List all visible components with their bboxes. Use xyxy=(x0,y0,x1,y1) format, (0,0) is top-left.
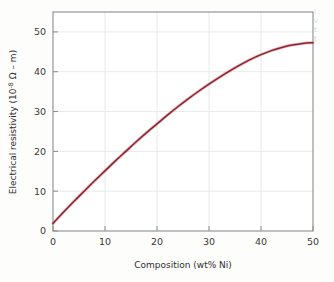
bleed-line: t xyxy=(314,35,334,44)
x-axis-title: Composition (wt% Ni) xyxy=(134,260,232,270)
x-axis-tick-labels: 01020304050 xyxy=(50,236,319,247)
page-text-bleed: l v t t xyxy=(314,8,334,44)
chart-figure: 01020304050 01020304050 Composition (wt%… xyxy=(0,0,334,282)
tick-label-y: 0 xyxy=(40,225,46,236)
tick-label-x: 40 xyxy=(255,236,267,247)
chart-canvas: 01020304050 01020304050 Composition (wt%… xyxy=(0,0,334,282)
bleed-line: l xyxy=(314,8,334,17)
tick-label-x: 0 xyxy=(50,236,56,247)
tick-label-y: 30 xyxy=(34,106,46,117)
tick-label-y: 20 xyxy=(34,146,46,157)
plot-area-background xyxy=(53,12,313,231)
tick-label-x: 20 xyxy=(151,236,163,247)
bleed-line: t xyxy=(314,26,334,35)
bleed-line: v xyxy=(314,17,334,26)
y-axis-title: Electrical resistivity (10-8 Ω – m) xyxy=(7,50,18,194)
tick-label-y: 40 xyxy=(34,66,46,77)
tick-label-y: 50 xyxy=(34,26,46,37)
tick-label-y: 10 xyxy=(34,186,46,197)
tick-label-x: 30 xyxy=(203,236,215,247)
tick-label-x: 10 xyxy=(99,236,111,247)
tick-label-x: 50 xyxy=(307,236,319,247)
y-axis-tick-labels: 01020304050 xyxy=(34,26,46,236)
